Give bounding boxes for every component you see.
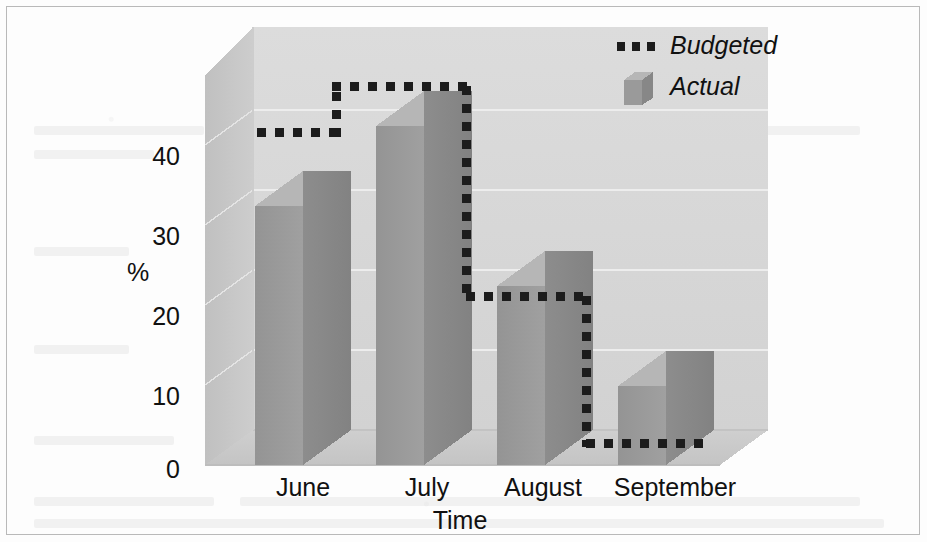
legend-actual-swatch bbox=[624, 72, 653, 105]
y-tick-0: 0 bbox=[115, 455, 180, 484]
legend-label-budgeted[interactable]: Budgeted bbox=[670, 31, 777, 60]
bar-july[interactable] bbox=[376, 91, 472, 465]
bar-june[interactable] bbox=[255, 171, 351, 465]
x-tick-august: August bbox=[478, 473, 608, 502]
bar-front-face bbox=[376, 126, 424, 465]
y-tick-40: 40 bbox=[115, 142, 180, 171]
chart-left-wall bbox=[205, 27, 253, 465]
bar-front-face bbox=[255, 206, 303, 465]
x-tick-september: September bbox=[595, 473, 755, 502]
x-tick-june: June bbox=[238, 473, 368, 502]
figure-page: 40 30 20 10 0 % June July August Septemb… bbox=[0, 0, 927, 542]
y-axis-title: % bbox=[118, 258, 158, 287]
bar-front-face bbox=[618, 386, 666, 465]
y-tick-30: 30 bbox=[115, 222, 180, 251]
bar-side-face bbox=[303, 171, 351, 465]
y-tick-10: 10 bbox=[115, 382, 180, 411]
x-tick-july: July bbox=[362, 473, 492, 502]
bar-front-face bbox=[497, 286, 545, 465]
y-tick-20: 20 bbox=[115, 302, 180, 331]
x-axis-title: Time bbox=[400, 506, 520, 535]
legend-label-actual[interactable]: Actual bbox=[670, 72, 739, 101]
bar-august[interactable] bbox=[497, 251, 593, 465]
